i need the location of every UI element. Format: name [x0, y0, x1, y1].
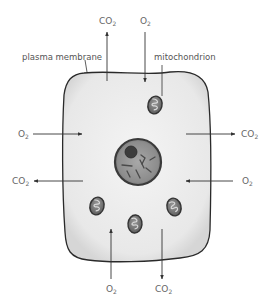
gas-label-left-upper: O2: [18, 130, 29, 139]
gas-label-bottom-right: CO2: [155, 285, 172, 294]
gas-label-left-lower: CO2: [12, 177, 29, 186]
gas-label-right-lower: O2: [242, 177, 253, 186]
cell-diagram: [0, 0, 272, 306]
gas-label-top-right: O2: [140, 17, 151, 26]
gas-label-right-upper: CO2: [241, 130, 258, 139]
mitochondrion-label: mitochondrion: [154, 53, 216, 62]
nucleus: [115, 139, 161, 185]
gas-label-bottom-left: O2: [106, 285, 117, 294]
gas-label-top-left: CO2: [99, 17, 116, 26]
nucleolus: [125, 146, 137, 158]
plasma-membrane-label: plasma membrane: [22, 53, 102, 62]
